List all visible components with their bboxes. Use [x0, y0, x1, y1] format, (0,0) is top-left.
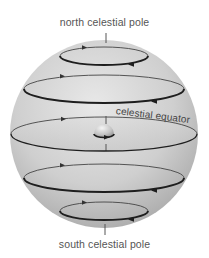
- celestial-sphere-diagram: north celestial pole celestial equator s…: [0, 0, 209, 258]
- north-celestial-pole-label: north celestial pole: [0, 16, 209, 28]
- south-celestial-pole-label: south celestial pole: [0, 238, 209, 250]
- celestial-sphere-graphic: [0, 0, 209, 258]
